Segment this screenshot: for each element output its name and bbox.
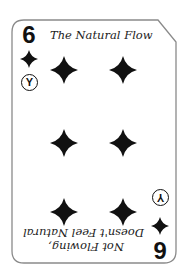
diamond-icon <box>109 55 137 85</box>
card-caption-bottom: Not Flowing, Doesn't Feel Natural <box>28 226 144 254</box>
diamond-icon <box>151 216 169 236</box>
diamond-icon <box>50 55 78 85</box>
caption-bottom-line2: Doesn't Feel Natural <box>28 226 144 240</box>
rank-top-left: 6 <box>19 23 39 47</box>
diamond-icon <box>109 128 137 158</box>
card-caption-top: The Natural Flow <box>50 28 153 42</box>
circled-letter-badge-bottom: Y <box>152 189 169 206</box>
diamond-icon <box>109 197 137 227</box>
diamond-icon <box>50 197 78 227</box>
caption-bottom-line1: Not Flowing, <box>28 240 144 254</box>
playing-card[interactable]: 6 Y The Natural Flow Not Flowing, Doesn'… <box>0 0 188 274</box>
diamond-icon <box>20 49 38 69</box>
circled-letter-badge-top: Y <box>21 74 38 91</box>
rank-bottom-right: 6 <box>150 238 170 262</box>
diamond-icon <box>50 128 78 158</box>
